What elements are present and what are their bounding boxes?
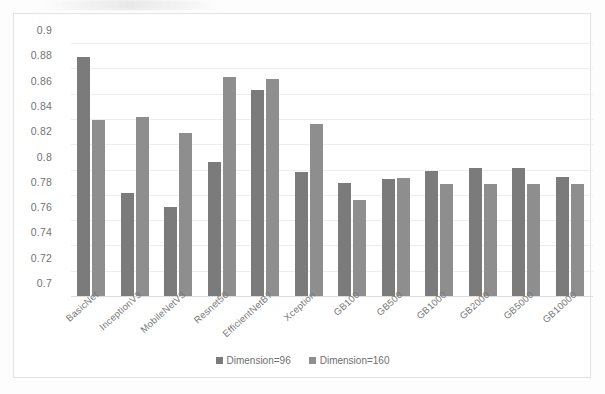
- bar: [382, 179, 395, 297]
- bar-group: [71, 44, 115, 297]
- y-tick-label: 0.74: [31, 226, 52, 238]
- bar-groups: [71, 44, 593, 297]
- bar: [266, 79, 279, 297]
- bar: [469, 168, 482, 297]
- x-tick-label: GB2000: [457, 289, 491, 321]
- bar: [440, 184, 453, 297]
- legend-item: Dimension=96: [216, 355, 291, 366]
- bar: [223, 77, 236, 297]
- bar-group: [245, 44, 289, 297]
- x-tick-label: GB10000: [540, 289, 578, 325]
- bar-group: [115, 44, 159, 297]
- y-tick-label: 0.9: [37, 24, 52, 36]
- bar: [484, 184, 497, 297]
- bar: [295, 172, 308, 297]
- bar: [353, 200, 366, 297]
- legend-swatch-icon: [216, 357, 223, 364]
- bar: [571, 184, 584, 297]
- legend-label: Dimension=160: [320, 355, 390, 366]
- bar-group: [550, 44, 594, 297]
- y-tick-label: 0.84: [31, 100, 52, 112]
- y-tick-label: 0.78: [31, 176, 52, 188]
- bar: [512, 168, 525, 297]
- y-axis: 0.90.880.860.840.820.80.780.760.740.720.…: [13, 0, 57, 394]
- bar-group: [202, 44, 246, 297]
- x-tick-label: InceptionV3: [97, 289, 143, 332]
- bar-group: [506, 44, 550, 297]
- y-tick-label: 0.88: [31, 49, 52, 61]
- bar-group: [158, 44, 202, 297]
- x-axis: BasicNetInceptionV3MobileNetV3Resnet50Ef…: [57, 285, 579, 347]
- y-tick-label: 0.7: [37, 277, 52, 289]
- scanned-page-background: 0.90.880.860.840.820.80.780.760.740.720.…: [0, 0, 605, 394]
- bar: [164, 207, 177, 297]
- bar: [136, 117, 149, 297]
- bar: [338, 183, 351, 297]
- bar: [397, 178, 410, 297]
- legend-label: Dimension=96: [227, 355, 291, 366]
- chart-legend: Dimension=96Dimension=160: [0, 355, 605, 366]
- x-tick-label: Resnet50: [192, 289, 231, 325]
- bar: [527, 184, 540, 297]
- legend-item: Dimension=160: [309, 355, 390, 366]
- legend-swatch-icon: [309, 357, 316, 364]
- bar-group: [463, 44, 507, 297]
- y-tick-label: 0.82: [31, 125, 52, 137]
- scan-artifact: [40, 0, 220, 10]
- x-tick-label: GB5000: [501, 289, 535, 321]
- bar-group: [289, 44, 333, 297]
- plot-area: [71, 44, 593, 297]
- bar: [77, 57, 90, 297]
- bar: [92, 120, 105, 297]
- bar: [121, 193, 134, 297]
- x-tick-label: GB500: [375, 289, 405, 318]
- y-tick-label: 0.86: [31, 75, 52, 87]
- y-tick-label: 0.72: [31, 252, 52, 264]
- x-tick-label: GB1000: [414, 289, 448, 321]
- bar-group: [376, 44, 420, 297]
- y-tick-label: 0.8: [37, 151, 52, 163]
- x-tick-label: MobileNetV3: [138, 289, 187, 335]
- x-tick-label: BasicNet: [63, 289, 100, 324]
- bar: [179, 133, 192, 297]
- bar: [310, 124, 323, 297]
- bar: [208, 162, 221, 297]
- bar: [556, 177, 569, 297]
- x-tick-label: GB100: [331, 289, 361, 318]
- bar-group: [332, 44, 376, 297]
- x-tick-label: Xception: [282, 289, 318, 323]
- bar: [425, 171, 438, 298]
- y-tick-label: 0.76: [31, 201, 52, 213]
- bar: [251, 90, 264, 297]
- bar-group: [419, 44, 463, 297]
